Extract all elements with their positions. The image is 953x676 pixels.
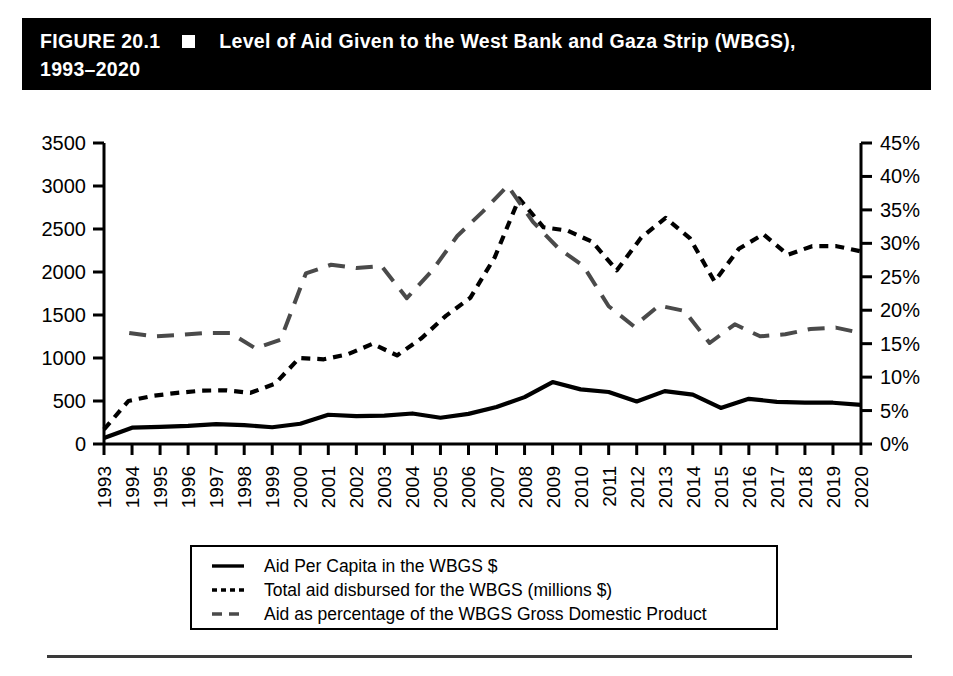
right-axis-tick-label: 15%: [880, 333, 920, 355]
x-axis-year-label: 2007: [487, 466, 508, 508]
left-axis-tick-label: 500: [53, 390, 86, 412]
legend-solid-line-icon: [210, 559, 250, 573]
figure-number-label: FIGURE 20.1: [40, 29, 160, 54]
left-axis-tick-label: 2500: [42, 218, 87, 240]
left-axis-tick-label: 3500: [42, 132, 87, 154]
x-axis-year-label: 2017: [767, 466, 788, 508]
left-axis-tick-label: 2000: [42, 261, 87, 283]
x-axis-year-label: 2020: [851, 466, 872, 508]
x-axis-year-label: 1997: [206, 466, 227, 508]
x-axis-year-label: 2005: [430, 466, 451, 508]
x-axis-year-label: 2006: [458, 466, 479, 508]
right-percent-axis: 0%5%10%15%20%25%30%35%40%45%: [861, 132, 920, 455]
year-category-axis: 1993199419951996199719981999200020012002…: [94, 444, 872, 508]
x-axis-year-label: 2011: [599, 466, 620, 507]
x-axis-year-label: 2004: [402, 466, 423, 509]
x-axis-year-label: 2009: [543, 466, 564, 508]
x-axis-year-label: 2018: [795, 466, 816, 508]
x-axis-year-label: 2003: [374, 466, 395, 508]
x-axis-year-label: 2013: [655, 466, 676, 508]
right-axis-tick-label: 30%: [880, 232, 920, 254]
legend-item-aid-per-capita: Aid Per Capita in the WBGS $: [210, 554, 776, 578]
x-axis-year-label: 2001: [318, 466, 339, 508]
chart-plot-area: 0500100015002000250030003500 0%5%10%15%2…: [0, 96, 953, 546]
x-axis-year-label: 1995: [150, 466, 171, 508]
left-axis-tick-label: 1500: [42, 304, 87, 326]
footer-divider: [47, 655, 912, 658]
x-axis-year-label: 1994: [122, 466, 143, 509]
x-axis-year-label: 2008: [515, 466, 536, 508]
legend-label-1: Total aid disbursed for the WBGS (millio…: [264, 580, 612, 601]
chart-series-group: [104, 186, 861, 438]
x-axis-year-label: 2016: [739, 466, 760, 508]
right-axis-tick-label: 20%: [880, 299, 920, 321]
left-value-axis: 0500100015002000250030003500: [42, 132, 105, 455]
x-axis-year-label: 2010: [571, 466, 592, 508]
filled-square-icon: [182, 35, 195, 48]
figure-title-bar: FIGURE 20.1 Level of Aid Given to the We…: [22, 18, 931, 90]
x-axis-year-label: 1998: [234, 466, 255, 508]
x-axis-year-label: 2000: [290, 466, 311, 508]
figure-title-text: Level of Aid Given to the West Bank and …: [219, 29, 795, 54]
figure-title-line: FIGURE 20.1 Level of Aid Given to the We…: [40, 29, 913, 54]
x-axis-year-label: 2015: [711, 466, 732, 508]
x-axis-year-label: 2002: [346, 466, 367, 508]
left-axis-tick-label: 1000: [42, 347, 87, 369]
x-axis-year-label: 1999: [262, 466, 283, 508]
right-axis-tick-label: 5%: [880, 400, 909, 422]
legend-label-2: Aid as percentage of the WBGS Gross Dome…: [264, 604, 707, 625]
series-line-0: [104, 382, 861, 438]
right-axis-tick-label: 40%: [880, 165, 920, 187]
x-axis-year-label: 2014: [683, 466, 704, 509]
line-chart: 0500100015002000250030003500 0%5%10%15%2…: [0, 96, 953, 546]
right-axis-tick-label: 0%: [880, 433, 909, 455]
legend-label-0: Aid Per Capita in the WBGS $: [264, 556, 497, 577]
legend-item-total-aid: Total aid disbursed for the WBGS (millio…: [210, 578, 776, 602]
series-line-2: [129, 186, 861, 349]
x-axis-year-label: 2012: [627, 466, 648, 508]
x-axis-year-label: 1993: [94, 466, 115, 508]
chart-legend: Aid Per Capita in the WBGS $ Total aid d…: [190, 545, 778, 630]
right-axis-tick-label: 10%: [880, 366, 920, 388]
left-axis-tick-label: 0: [75, 433, 86, 455]
legend-dashed-line-icon: [210, 607, 250, 621]
figure-title-subtext: 1993–2020: [40, 57, 913, 82]
x-axis-year-label: 1996: [178, 466, 199, 508]
right-axis-tick-label: 35%: [880, 199, 920, 221]
legend-item-aid-percent-gdp: Aid as percentage of the WBGS Gross Dome…: [210, 602, 776, 626]
legend-dotted-line-icon: [210, 583, 250, 597]
series-line-1: [104, 198, 861, 429]
left-axis-tick-label: 3000: [42, 175, 87, 197]
right-axis-tick-label: 25%: [880, 266, 920, 288]
x-axis-year-label: 2019: [823, 466, 844, 508]
right-axis-tick-label: 45%: [880, 132, 920, 154]
